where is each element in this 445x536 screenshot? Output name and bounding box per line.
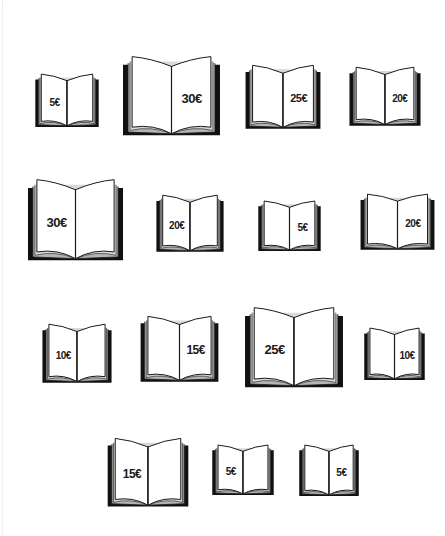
open-book-3: 25€ [244, 64, 322, 130]
open-book-icon [257, 200, 322, 252]
open-book-icon [139, 315, 220, 383]
open-book-5: 30€ [26, 178, 125, 262]
price-label: 15€ [186, 343, 205, 357]
price-label: 5€ [49, 96, 59, 107]
price-label: 20€ [392, 92, 407, 103]
open-book-icon [34, 73, 100, 128]
open-book-11: 25€ [243, 306, 345, 389]
open-book-icon [155, 194, 225, 253]
open-book-icon [41, 323, 113, 384]
open-book-9: 10€ [41, 323, 113, 384]
open-book-icon [243, 306, 345, 389]
open-book-7: 5€ [257, 200, 322, 252]
price-label: 30€ [47, 214, 67, 229]
price-label: 20€ [169, 219, 184, 230]
price-label: 30€ [182, 90, 202, 105]
price-label: 25€ [290, 92, 307, 104]
open-book-1: 5€ [34, 73, 100, 128]
price-label: 10€ [56, 349, 71, 360]
open-book-icon [26, 178, 125, 262]
open-book-6: 20€ [155, 194, 225, 253]
open-book-icon [359, 193, 436, 251]
left-edge-dotted-line [2, 0, 3, 536]
open-book-icon [106, 437, 190, 508]
open-book-icon [298, 444, 360, 497]
open-book-icon [244, 64, 322, 130]
open-book-icon [211, 444, 275, 496]
open-book-icon [363, 327, 426, 381]
price-label: 10€ [400, 350, 415, 361]
open-book-15: 5€ [298, 444, 360, 497]
price-label: 5€ [336, 466, 346, 477]
price-label: 5€ [226, 466, 236, 477]
open-book-13: 15€ [106, 437, 190, 508]
open-book-icon [121, 55, 222, 137]
price-label: 5€ [297, 222, 307, 233]
price-label: 20€ [405, 218, 420, 229]
open-book-10: 15€ [139, 315, 220, 383]
open-book-8: 20€ [359, 193, 436, 251]
price-label: 25€ [265, 342, 285, 357]
open-book-2: 30€ [121, 55, 222, 137]
open-book-4: 20€ [348, 66, 422, 127]
open-book-12: 10€ [363, 327, 426, 381]
price-label: 15€ [123, 467, 142, 481]
open-book-icon [348, 66, 422, 127]
open-book-14: 5€ [211, 444, 275, 496]
